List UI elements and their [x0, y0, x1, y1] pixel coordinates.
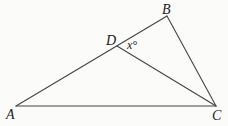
- angle-label-x: x°: [126, 38, 137, 52]
- segment-dc: [117, 46, 216, 106]
- label-point-c: C: [212, 108, 222, 123]
- triangle-diagram: A B C D x°: [0, 0, 228, 126]
- segment-ab: [16, 16, 167, 106]
- segment-bc: [167, 16, 216, 106]
- label-point-d: D: [105, 33, 116, 48]
- label-point-a: A: [5, 107, 15, 122]
- label-point-b: B: [162, 2, 171, 17]
